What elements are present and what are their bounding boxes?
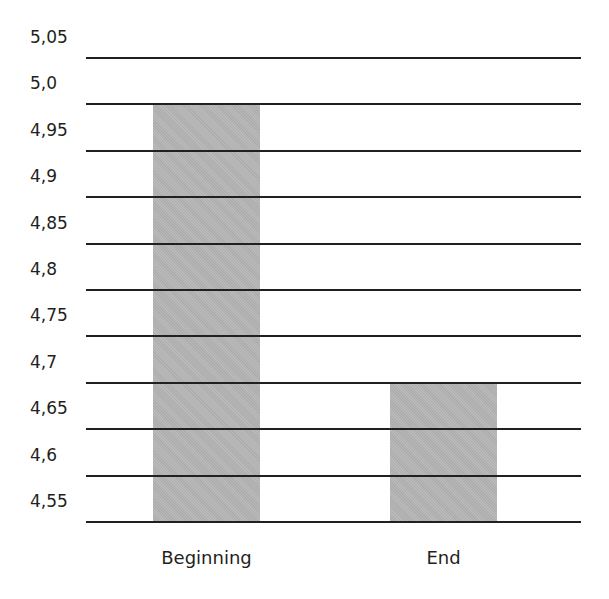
y-tick-label: 4,75	[30, 305, 68, 325]
gridline	[86, 196, 581, 198]
gridline	[86, 289, 581, 291]
y-tick-label: 4,9	[30, 166, 57, 186]
gridline	[86, 521, 581, 523]
gridline	[86, 335, 581, 337]
bar-chart: 4,554,64,654,74,754,84,854,94,955,05,05 …	[0, 0, 609, 599]
gridline	[86, 428, 581, 430]
y-tick-label: 5,0	[30, 73, 57, 93]
gridline	[86, 150, 581, 152]
y-tick-label: 4,95	[30, 120, 68, 140]
gridline	[86, 243, 581, 245]
category-label-beginning: Beginning	[123, 547, 290, 569]
y-tick-label: 4,65	[30, 398, 68, 418]
y-tick-label: 4,55	[30, 491, 68, 511]
category-label-end: End	[360, 547, 527, 569]
gridline	[86, 57, 581, 59]
y-tick-label: 4,7	[30, 352, 57, 372]
y-tick-label: 4,8	[30, 259, 57, 279]
bar-beginning	[153, 104, 260, 522]
gridline	[86, 382, 581, 384]
gridline	[86, 475, 581, 477]
bar-end	[390, 383, 497, 522]
y-tick-label: 4,85	[30, 213, 68, 233]
gridline	[86, 103, 581, 105]
y-tick-label: 4,6	[30, 445, 57, 465]
y-tick-label: 5,05	[30, 27, 68, 47]
